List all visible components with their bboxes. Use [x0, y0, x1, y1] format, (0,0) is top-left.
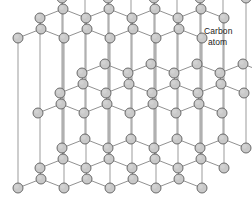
carbon-atom-highlight — [196, 144, 201, 149]
carbon-atom-highlight — [82, 14, 87, 19]
carbon-atom-highlight — [104, 144, 109, 149]
carbon-atom-highlight — [197, 155, 202, 160]
carbon-atom-highlight — [102, 89, 107, 94]
carbon-atom-highlight — [152, 34, 157, 39]
carbon-atom-highlight — [151, 5, 156, 10]
carbon-atom-label-line2: atom — [204, 37, 232, 48]
carbon-atom-highlight — [218, 109, 223, 114]
carbon-atom-highlight — [82, 164, 87, 169]
carbon-atom-highlight — [173, 135, 178, 140]
carbon-atom-highlight — [174, 164, 179, 169]
carbon-atom-highlight — [37, 25, 42, 30]
carbon-atom-highlight — [128, 164, 133, 169]
carbon-atom-highlight — [174, 14, 179, 19]
carbon-atom-highlight — [124, 69, 129, 74]
carbon-atom-highlight — [198, 34, 203, 39]
carbon-atom-highlight — [151, 155, 156, 160]
carbon-atom-highlight — [128, 14, 133, 19]
carbon-atom-highlight — [105, 155, 110, 160]
carbon-atom-highlight — [193, 60, 198, 65]
carbon-atom-highlight — [129, 25, 134, 30]
carbon-atom-highlight — [37, 175, 42, 180]
carbon-atom-highlight — [58, 144, 63, 149]
carbon-atom-highlight — [172, 109, 177, 114]
carbon-atom-highlight — [14, 184, 19, 189]
carbon-atom-label-line1: Carbon — [204, 26, 232, 36]
carbon-atom — [241, 0, 251, 3]
carbon-atom-highlight — [175, 25, 180, 30]
carbon-atom-highlight — [152, 184, 157, 189]
carbon-atom-highlight — [83, 25, 88, 30]
carbon-atom-highlight — [83, 175, 88, 180]
carbon-atom-highlight — [150, 144, 155, 149]
graphite-lattice-figure: Carbon atom — [0, 0, 252, 223]
carbon-atom-highlight — [36, 14, 41, 19]
carbon-atom — [103, 0, 113, 3]
carbon-atom-highlight — [147, 60, 152, 65]
carbon-atom-highlight — [60, 184, 65, 189]
carbon-atom-highlight — [197, 5, 202, 10]
carbon-atom-highlight — [101, 60, 106, 65]
carbon-atom-highlight — [105, 5, 110, 10]
carbon-atom-highlight — [14, 34, 19, 39]
carbon-atom-highlight — [106, 34, 111, 39]
carbon-atom-label: Carbon atom — [204, 26, 232, 47]
carbon-atom-highlight — [194, 89, 199, 94]
carbon-atom-highlight — [195, 100, 200, 105]
carbon-atom-highlight — [57, 100, 62, 105]
carbon-atom-highlight — [59, 155, 64, 160]
carbon-atom-highlight — [81, 135, 86, 140]
carbon-atom-highlight — [103, 100, 108, 105]
carbon-atom-highlight — [175, 175, 180, 180]
carbon-atom-highlight — [148, 89, 153, 94]
carbon-atom-highlight — [78, 69, 83, 74]
carbon-atom-highlight — [171, 80, 176, 85]
carbon-atom-highlight — [242, 144, 247, 149]
carbon-atom-highlight — [198, 184, 203, 189]
carbon-atom-highlight — [126, 109, 131, 114]
carbon-atom-highlight — [239, 60, 244, 65]
carbon-atom — [195, 0, 205, 3]
carbon-atom-highlight — [217, 80, 222, 85]
carbon-atom-highlight — [59, 5, 64, 10]
carbon-atom-highlight — [149, 100, 154, 105]
carbon-atom-highlight — [219, 135, 224, 140]
carbon-atom-highlight — [170, 69, 175, 74]
carbon-atom-highlight — [36, 164, 41, 169]
carbon-atom-highlight — [240, 89, 245, 94]
carbon-atom — [57, 0, 67, 3]
carbon-atom-highlight — [127, 135, 132, 140]
carbon-atom-highlight — [220, 14, 225, 19]
carbon-atom-highlight — [56, 89, 61, 94]
carbon-atom-highlight — [216, 69, 221, 74]
carbon-atom-highlight — [129, 175, 134, 180]
carbon-atom-highlight — [80, 109, 85, 114]
carbon-atom-highlight — [34, 109, 39, 114]
carbon-atom — [149, 0, 159, 3]
carbon-atom-highlight — [220, 164, 225, 169]
carbon-atom-highlight — [79, 80, 84, 85]
carbon-atom-highlight — [106, 184, 111, 189]
carbon-atom-highlight — [60, 34, 65, 39]
carbon-atom-highlight — [125, 80, 130, 85]
